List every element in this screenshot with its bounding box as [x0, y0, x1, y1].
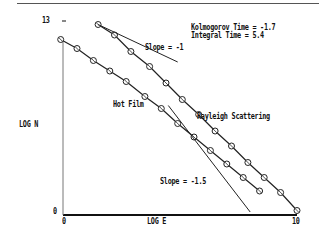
y-tick-label-bottom: 0 — [53, 208, 57, 216]
x-tick-label-left: 0 — [62, 218, 66, 226]
y-tick-label-top: 13 — [42, 17, 50, 25]
annotation-slope-1: Slope = -1 — [145, 44, 183, 52]
x-tick-label-right: 10 — [292, 218, 300, 226]
annotation-slope-1-5: Slope = -1.5 — [160, 178, 206, 186]
annotation-integral: Integral Time = 5.4 — [191, 32, 264, 40]
x-axis-label: LOG E — [147, 218, 166, 226]
series-label-rayleigh: Rayleigh Scattering — [197, 113, 270, 121]
y-axis-label: LOG N — [19, 121, 38, 129]
series-line-3 — [168, 106, 250, 213]
series-label-hot-film: Hot Film — [113, 101, 144, 109]
plot-area — [0, 0, 319, 245]
